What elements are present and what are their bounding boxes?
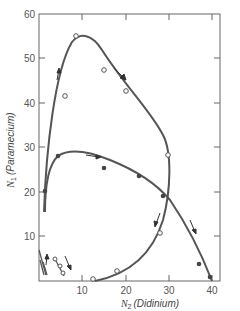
y-tick-label: 40 (24, 98, 36, 109)
x-ticks (82, 14, 212, 281)
y-tick-label: 60 (24, 9, 36, 20)
y-tick-label: 20 (24, 187, 36, 198)
y-ticks (39, 58, 220, 236)
y-axis-label: N1(Paramecium) (5, 112, 17, 188)
y-tick-label: 30 (24, 142, 36, 153)
origin-trajectories (39, 250, 64, 276)
x-tick-label: 30 (163, 285, 175, 296)
filled-circle-markers (43, 154, 213, 280)
phase-plot: 10 20 30 40 50 60 10 20 30 40 N2(Didiniu… (0, 0, 240, 311)
x-tick-label: 10 (76, 285, 88, 296)
y-tick-label: 50 (24, 53, 36, 64)
y-tick-label: 10 (24, 231, 36, 242)
x-tick-label: 40 (206, 285, 218, 296)
x-tick-label: 20 (120, 285, 132, 296)
x-axis-label: N2(Didinium) (120, 298, 179, 310)
direction-arrows (45, 68, 196, 270)
trajectory-2-curve (45, 152, 212, 281)
